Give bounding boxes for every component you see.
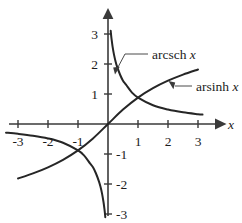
x-tick-label-1: 1 xyxy=(135,134,142,149)
curve-label-arsinh-var: x xyxy=(231,79,238,94)
y-tick-label-3: 3 xyxy=(91,27,98,42)
x-axis-arrowhead xyxy=(215,119,227,130)
curve-label-arsinh-text: arsinh xyxy=(196,79,229,94)
x-tick-label-2: 2 xyxy=(165,134,172,149)
y-tick-label--2: -2 xyxy=(116,177,127,192)
x-axis xyxy=(9,119,227,130)
curve-label-arsinh: arsinh x xyxy=(196,79,238,94)
hyperbolic-functions-figure: -3 -2 -1 1 2 3 3 2 1 -1 -2 -3 x arcsch x… xyxy=(0,0,242,223)
arsinh-leader-arrowhead xyxy=(169,81,176,89)
curve-label-arcsch-var: x xyxy=(189,47,196,62)
curve-label-arcsch-text: arcsch xyxy=(152,47,187,62)
y-tick-label-2: 2 xyxy=(91,57,98,72)
x-axis-name-label: x xyxy=(227,117,234,132)
plot-canvas: -3 -2 -1 1 2 3 3 2 1 -1 -2 -3 x arcsch x… xyxy=(0,0,242,223)
curve-label-arcsch: arcsch x xyxy=(152,47,196,62)
x-tick-label--1: -1 xyxy=(72,134,83,149)
x-tick-label--3: -3 xyxy=(12,134,23,149)
y-tick-label--3: -3 xyxy=(116,207,127,222)
y-axis-arrowhead xyxy=(103,8,114,19)
y-tick-label--1: -1 xyxy=(116,147,127,162)
x-tick-label--2: -2 xyxy=(42,134,53,149)
x-tick-label-3: 3 xyxy=(195,134,202,149)
y-tick-label-1: 1 xyxy=(91,87,98,102)
